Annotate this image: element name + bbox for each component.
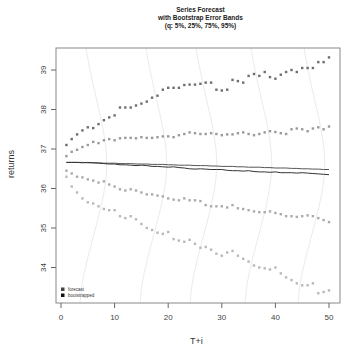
- x-axis: 01020304050: [59, 303, 334, 322]
- legend: forecastbootstrapped: [61, 287, 95, 298]
- y-tick-label: 36: [39, 184, 48, 193]
- x-tick-label: 50: [325, 313, 334, 322]
- y-axis-label: returns: [6, 150, 16, 178]
- y-tick-label: 38: [39, 105, 48, 114]
- series-q25: [65, 170, 330, 224]
- plot-frame: [56, 48, 340, 303]
- x-tick-label: 10: [110, 313, 119, 322]
- x-tick-label: 0: [59, 313, 64, 322]
- legend-label-forecast: forecast: [68, 287, 85, 292]
- y-tick-label: 34: [39, 263, 48, 272]
- x-tick-label: 30: [217, 313, 226, 322]
- series-q75: [65, 125, 330, 157]
- y-axis: 343536373839: [39, 65, 56, 272]
- y-tick-label: 39: [39, 65, 48, 74]
- series-q05: [65, 176, 330, 295]
- legend-label-bootstrapped: bootstrapped: [68, 293, 95, 298]
- chart-plot: 34353637383901020304050forecastbootstrap…: [0, 0, 361, 359]
- y-tick-label: 35: [39, 223, 48, 232]
- y-tick-label: 37: [39, 144, 48, 153]
- density-curves: [80, 48, 325, 303]
- x-axis-label: T+i: [190, 336, 203, 346]
- x-tick-label: 20: [164, 313, 173, 322]
- series-q95: [65, 56, 330, 146]
- x-tick-label: 40: [271, 313, 280, 322]
